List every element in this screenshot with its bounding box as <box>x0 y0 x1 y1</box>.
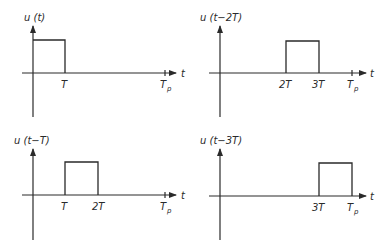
x-axis-label: t <box>181 190 186 201</box>
tick-label: 2T <box>92 201 105 212</box>
tick-label-tp-sub: p <box>166 207 172 215</box>
pulse <box>286 41 319 73</box>
panel-u-t: u (t) t T T p <box>22 12 186 117</box>
tick-label-tp-sub: p <box>353 208 359 216</box>
tick-label-tp-sub: p <box>166 85 172 93</box>
tick-label: 2T <box>279 79 292 90</box>
x-axis-label: t <box>181 68 186 79</box>
panel-u-t-T: u (t−T) t T 2T T p <box>14 135 186 240</box>
tick-label: T <box>61 79 68 90</box>
tick-label-tp-sub: p <box>353 85 359 93</box>
panel-u-t-2T: u (t−2T) t 2T 3T T p <box>200 12 375 117</box>
tick-label-tp: T <box>160 201 167 212</box>
tick-label-tp: T <box>347 202 354 213</box>
tick-label: T <box>61 201 68 212</box>
x-axis-label: t <box>370 68 375 79</box>
x-axis-label: t <box>370 191 375 202</box>
panel-u-t-3T: u (t−3T) t 3T T p <box>200 135 375 240</box>
pulse <box>319 163 352 196</box>
pulse <box>33 40 65 73</box>
tick-label: 3T <box>312 202 325 213</box>
tick-label-tp: T <box>160 79 167 90</box>
tick-label-tp: T <box>347 79 354 90</box>
tick-label: 3T <box>312 79 325 90</box>
panel-title: u (t−2T) <box>200 12 242 23</box>
panel-title: u (t−T) <box>14 135 50 146</box>
shifted-pulse-diagram: u (t) t T T p u (t−2T) t 2T 3T T p u (t−… <box>0 0 388 248</box>
panel-title: u (t−3T) <box>200 135 242 146</box>
pulse <box>65 162 98 195</box>
panel-title: u (t) <box>24 12 45 23</box>
